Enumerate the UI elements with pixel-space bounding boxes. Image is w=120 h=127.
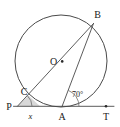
label-point-p: P	[6, 101, 12, 112]
label-point-a: A	[58, 111, 66, 122]
label-angle-70-degrees: 70°	[72, 90, 83, 99]
label-center-o: O	[50, 56, 57, 67]
label-point-t: T	[103, 111, 109, 122]
label-point-c: C	[21, 86, 28, 97]
label-point-b: B	[94, 9, 101, 20]
geometry-figure: O B C P A T 70° x	[0, 0, 120, 127]
point-t-dot	[105, 105, 108, 108]
geometry-canvas: O B C P A T 70° x	[0, 0, 120, 127]
center-point-dot	[61, 60, 64, 63]
label-angle-x: x	[28, 111, 33, 121]
